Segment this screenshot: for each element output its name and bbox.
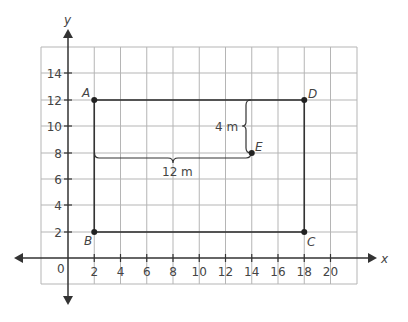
y-axis-label: y (63, 13, 72, 27)
svg-text:12: 12 (218, 265, 233, 279)
svg-text:4: 4 (54, 199, 62, 213)
vertical-measurement: 4 m (215, 120, 238, 134)
svg-text:4: 4 (117, 265, 125, 279)
svg-text:14: 14 (244, 265, 259, 279)
label-b: B (84, 234, 92, 248)
x-tick-labels: 2 4 6 8 10 12 14 16 18 20 (90, 265, 338, 279)
svg-text:2: 2 (54, 226, 62, 240)
label-d: D (308, 87, 317, 101)
svg-text:8: 8 (54, 147, 62, 161)
svg-text:12: 12 (47, 94, 62, 108)
svg-text:2: 2 (90, 265, 98, 279)
svg-text:16: 16 (270, 265, 285, 279)
point-a (91, 97, 97, 103)
svg-text:6: 6 (143, 265, 151, 279)
origin-label: 0 (57, 262, 65, 276)
horizontal-measurement: 12 m (162, 165, 193, 179)
label-e: E (255, 140, 263, 154)
point-d (301, 97, 307, 103)
point-e (249, 150, 255, 156)
label-a: A (81, 86, 90, 100)
svg-text:10: 10 (192, 265, 207, 279)
svg-text:8: 8 (169, 265, 177, 279)
coordinate-diagram: y x 0 2 4 6 8 10 12 14 16 18 20 2 4 6 8 … (0, 0, 408, 322)
svg-text:6: 6 (54, 173, 62, 187)
svg-text:14: 14 (47, 67, 62, 81)
svg-text:18: 18 (297, 265, 312, 279)
svg-text:10: 10 (47, 120, 62, 134)
label-c: C (307, 235, 316, 249)
x-axis-label: x (380, 252, 389, 266)
svg-text:20: 20 (323, 265, 338, 279)
